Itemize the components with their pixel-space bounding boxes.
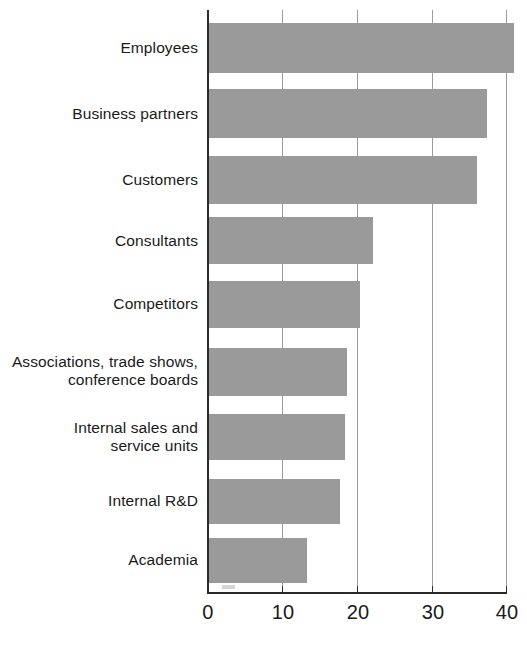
bar-internal-sales <box>209 414 345 460</box>
tick-10 <box>282 586 283 594</box>
category-label-competitors: Competitors <box>0 295 202 313</box>
bar-academia <box>209 538 307 583</box>
x-tick-label-30: 30 <box>403 600 463 624</box>
tick-20 <box>357 586 358 594</box>
category-label-business-partners: Business partners <box>0 105 202 123</box>
bar-business-partners <box>209 89 487 138</box>
category-label-internal-rd: Internal R&D <box>0 492 202 510</box>
category-label-internal-sales: Internal sales and service units <box>0 419 202 455</box>
tick-0 <box>207 586 208 594</box>
bar-associations <box>209 348 347 396</box>
category-label-consultants: Consultants <box>0 232 202 250</box>
tick-30 <box>432 586 433 594</box>
x-tick-label-10: 10 <box>253 600 313 624</box>
scan-artifact <box>222 585 235 589</box>
x-tick-label-20: 20 <box>328 600 388 624</box>
bar-internal-rd <box>209 479 340 524</box>
category-label-column: Employees Business partners Customers Co… <box>0 0 202 645</box>
category-label-customers: Customers <box>0 171 202 189</box>
bar-competitors <box>209 281 360 328</box>
bar-employees <box>209 23 514 73</box>
category-label-line: Internal R&D <box>0 492 198 510</box>
bar-customers <box>209 156 477 204</box>
category-label-line: Internal sales and <box>0 419 198 437</box>
category-label-line: conference boards <box>0 371 198 389</box>
bar-chart: 0 10 20 30 40 Employees Business partner… <box>0 0 527 645</box>
tick-40 <box>506 586 507 594</box>
category-label-line: Competitors <box>0 295 198 313</box>
category-label-academia: Academia <box>0 551 202 569</box>
bar-consultants <box>209 217 373 264</box>
category-label-associations: Associations, trade shows, conference bo… <box>0 353 202 389</box>
category-label-line: Consultants <box>0 232 198 250</box>
category-label-line: Employees <box>0 39 198 57</box>
category-label-line: Academia <box>0 551 198 569</box>
category-label-line: service units <box>0 437 198 455</box>
category-label-line: Associations, trade shows, <box>0 353 198 371</box>
category-label-line: Business partners <box>0 105 198 123</box>
category-label-employees: Employees <box>0 39 202 57</box>
gridline-40 <box>506 10 507 593</box>
y-axis-line <box>207 10 209 594</box>
x-tick-label-40: 40 <box>477 600 527 624</box>
category-label-line: Customers <box>0 171 198 189</box>
